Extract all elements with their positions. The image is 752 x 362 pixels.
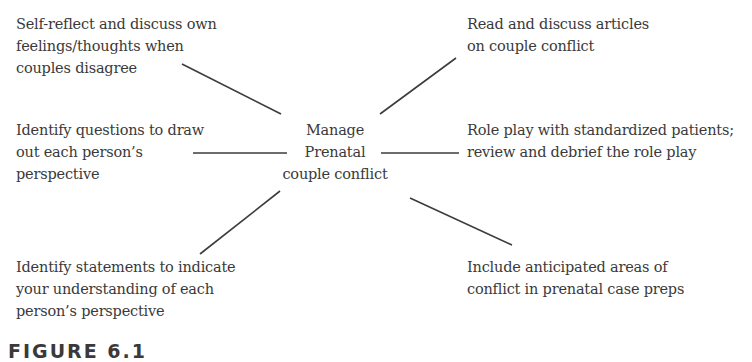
- edge-center-to-top-right: [380, 58, 456, 114]
- center-node-manage-conflict: Manage Prenatal couple conflict: [277, 119, 393, 185]
- node-self-reflect: Self-reflect and discuss own feelings/th…: [16, 13, 217, 79]
- node-include-anticipated-areas: Include anticipated areas of conflict in…: [467, 256, 684, 300]
- figure-caption: FIGURE 6.1: [8, 340, 147, 362]
- node-read-articles: Read and discuss articles on couple conf…: [467, 13, 649, 57]
- node-identify-statements: Identify statements to indicate your und…: [16, 256, 235, 322]
- node-identify-questions: Identify questions to draw out each pers…: [16, 119, 204, 185]
- edge-center-to-bottom-left: [200, 191, 280, 254]
- node-role-play: Role play with standardized patients; re…: [467, 119, 734, 163]
- edge-center-to-bottom-right: [410, 198, 512, 245]
